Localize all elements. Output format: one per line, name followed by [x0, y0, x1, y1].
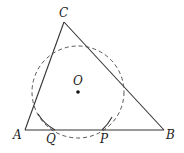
- label-C: C: [59, 6, 68, 20]
- label-P: P: [99, 132, 109, 146]
- label-B: B: [165, 128, 175, 142]
- diagram-svg: C A B O Q P: [0, 0, 184, 153]
- label-Q: Q: [46, 132, 56, 146]
- side-AC: [25, 22, 64, 130]
- geometry-diagram: C A B O Q P: [0, 0, 184, 153]
- center-point-O: [76, 90, 80, 94]
- solid-arc: [38, 114, 55, 130]
- solid-arc-right: [102, 117, 112, 130]
- label-O: O: [73, 74, 83, 88]
- label-A: A: [12, 128, 22, 142]
